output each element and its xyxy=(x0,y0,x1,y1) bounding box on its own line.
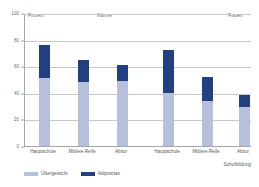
x-axis-title: Schulbildung xyxy=(224,163,251,168)
y-axis-tick-label: 0 xyxy=(16,145,19,150)
bar-segment-uebergewicht[interactable] xyxy=(39,78,50,146)
legend-swatch-icon xyxy=(24,172,38,176)
y-axis-tick-label: 60 xyxy=(14,65,19,70)
bar-segment-uebergewicht[interactable] xyxy=(117,81,128,146)
y-axis-tick-label: 20 xyxy=(14,118,19,123)
bar-segment-uebergewicht[interactable] xyxy=(202,101,213,146)
x-axis-tick-label: Hauptschule xyxy=(154,150,180,155)
legend-item-uebergewicht[interactable]: Übergewicht xyxy=(24,172,68,177)
bar-segment-adipositas[interactable] xyxy=(202,77,213,101)
y-axis-tick-label: 100 xyxy=(11,12,19,17)
legend-swatch-icon xyxy=(81,172,95,176)
x-axis-tick-label: Mittlere Reife xyxy=(192,150,219,155)
bar-segment-uebergewicht[interactable] xyxy=(163,93,174,146)
x-axis-tick-label: Abitur xyxy=(115,150,127,155)
x-axis-tick-label: Abitur xyxy=(237,150,249,155)
bar-segment-uebergewicht[interactable] xyxy=(239,107,250,146)
bar-segment-adipositas[interactable] xyxy=(239,95,250,107)
x-axis-tick-label: Hauptschule xyxy=(30,150,56,155)
chart-container: 020406080100 Prozent Männer Frauen Haupt… xyxy=(0,0,259,187)
bar-segment-adipositas[interactable] xyxy=(163,50,174,93)
y-axis-tick-label: 80 xyxy=(14,38,19,43)
legend-label: Adipositas xyxy=(98,172,120,177)
legend-item-adipositas[interactable]: Adipositas xyxy=(81,172,120,177)
legend-label: Übergewicht xyxy=(41,172,68,177)
bar-segment-adipositas[interactable] xyxy=(39,45,50,78)
x-axis: HauptschuleMittlere ReifeAbiturHauptschu… xyxy=(24,150,251,160)
bar-segment-adipositas[interactable] xyxy=(117,65,128,81)
bar-5[interactable] xyxy=(239,95,250,146)
bar-2[interactable] xyxy=(117,65,128,146)
y-axis-tick-label: 40 xyxy=(14,92,19,97)
y-axis: 020406080100 xyxy=(0,14,24,147)
bar-0[interactable] xyxy=(39,45,50,146)
bar-3[interactable] xyxy=(163,50,174,146)
legend: ÜbergewichtAdipositas xyxy=(24,172,120,177)
bars-layer xyxy=(25,14,251,146)
bar-segment-uebergewicht[interactable] xyxy=(78,82,89,146)
bar-segment-adipositas[interactable] xyxy=(78,60,89,83)
bar-1[interactable] xyxy=(78,60,89,146)
bar-4[interactable] xyxy=(202,77,213,146)
x-axis-tick-label: Mittlere Reife xyxy=(68,150,95,155)
plot-area xyxy=(24,14,251,147)
